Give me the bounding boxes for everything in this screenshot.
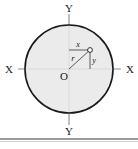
radius-label: r bbox=[71, 53, 75, 63]
circle-coordinate-diagram: Y Y X X O x y r bbox=[0, 0, 138, 149]
x-component-label: x bbox=[75, 40, 80, 49]
origin-label: O bbox=[60, 70, 68, 82]
figure-container: Y Y X X O x y r bbox=[0, 0, 138, 149]
clipped-caption-text bbox=[22, 142, 122, 149]
y-component-label: y bbox=[91, 56, 96, 65]
y-axis-bottom-label: Y bbox=[65, 125, 73, 137]
point-marker bbox=[88, 48, 93, 53]
y-axis-top-label: Y bbox=[65, 2, 73, 14]
x-axis-right-label: X bbox=[126, 63, 134, 75]
x-axis-left-label: X bbox=[5, 63, 13, 75]
caption-divider bbox=[0, 138, 138, 140]
